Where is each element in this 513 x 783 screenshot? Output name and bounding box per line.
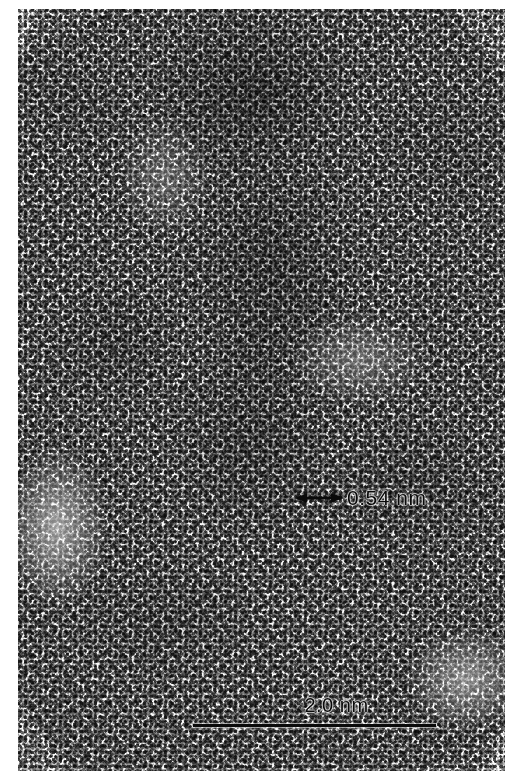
halftone-grain-layer-4 bbox=[18, 9, 505, 771]
lattice-fringe-pattern-secondary bbox=[193, 219, 323, 469]
scale-bar-line bbox=[193, 724, 436, 727]
scale-bar-label: 2.0 nm bbox=[193, 695, 438, 715]
density-cloud-overlay bbox=[18, 9, 505, 771]
scale-bar-group: 2.0 nm bbox=[193, 695, 438, 727]
d-spacing-label: 0.54 nm bbox=[347, 487, 426, 508]
hrtem-micrograph-figure: 0.54 nm 2.0 nm Halftone-printed high-res… bbox=[0, 0, 513, 783]
halftone-grain-layer-3 bbox=[18, 9, 505, 771]
d-spacing-annotation: 0.54 nm bbox=[294, 487, 426, 508]
tem-image-plate: 0.54 nm 2.0 nm bbox=[18, 9, 505, 771]
lattice-fringe-pattern bbox=[168, 159, 368, 529]
double-headed-arrow-icon bbox=[294, 491, 344, 505]
halftone-grain-layer-5 bbox=[18, 9, 505, 771]
bright-region-overlay bbox=[18, 9, 505, 771]
halftone-grain-layer-2 bbox=[18, 9, 505, 771]
halftone-grain-layer-1 bbox=[18, 9, 505, 771]
plate-description: Halftone-printed high-resolution transmi… bbox=[0, 0, 1, 1]
